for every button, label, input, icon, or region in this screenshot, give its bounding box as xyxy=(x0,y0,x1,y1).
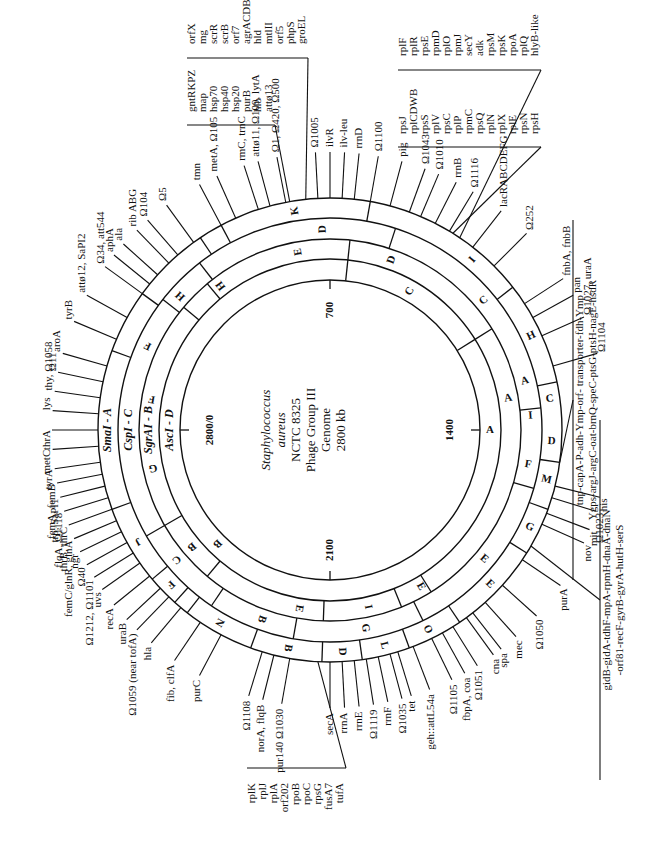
marker-leader xyxy=(547,513,590,529)
segment-divider xyxy=(394,589,401,608)
marker-leader xyxy=(217,176,236,218)
segment-label: J xyxy=(133,536,144,549)
marker-leader xyxy=(57,474,102,483)
segment-label: G xyxy=(360,622,373,633)
segment-label: E xyxy=(293,604,306,613)
segment-divider xyxy=(146,526,164,537)
gene-marker-label: ala xyxy=(112,228,124,241)
genome-title: StaphylococcusaureusNCTC 8325Phage Group… xyxy=(258,388,348,472)
segment-divider xyxy=(251,629,258,648)
gene-marker-label: uraB xyxy=(116,623,128,644)
segment-divider xyxy=(152,566,167,579)
segment-label: I xyxy=(528,408,533,420)
segment-label: H xyxy=(524,327,537,342)
enzyme-label: CspI - C xyxy=(121,408,135,450)
marker-leader xyxy=(244,166,258,210)
segment-label: D xyxy=(384,254,398,266)
segment-label: G xyxy=(524,519,537,534)
marker-leader xyxy=(105,267,142,294)
segment-divider xyxy=(367,202,370,222)
gene-marker-label: mec xyxy=(512,640,524,658)
marker-leader xyxy=(494,233,527,266)
segment-divider xyxy=(112,351,131,358)
gene-marker-label: purA xyxy=(557,588,569,611)
gene-marker-label: hla xyxy=(141,647,153,661)
marker-leader xyxy=(315,152,317,198)
marker-leader xyxy=(390,161,402,205)
scale-label: 2100 xyxy=(323,539,335,562)
marker-leader xyxy=(114,255,150,284)
segment-divider xyxy=(497,287,513,299)
gene-marker-label: lys xyxy=(40,397,52,410)
gene-marker-label: pur140 Ω1030 xyxy=(273,708,285,773)
segment-divider xyxy=(322,642,323,662)
marker-leader xyxy=(533,295,573,317)
segment-divider xyxy=(414,602,423,621)
gene-marker-label: aroA xyxy=(50,330,62,352)
marker-leader xyxy=(522,560,560,586)
segment-label: E xyxy=(415,580,429,592)
segment-label: B xyxy=(185,541,199,555)
segment-label: H xyxy=(212,279,227,293)
marker-leader xyxy=(354,661,359,707)
marker-leader xyxy=(282,658,290,703)
gene-marker-label: Ω1116 xyxy=(468,158,480,188)
segment-label: E xyxy=(291,247,304,256)
gene-group-item: Ygps-argJ-argC-oat-brnQ-speC-ptsG-ptsH-n… xyxy=(586,279,598,520)
segment-label: K xyxy=(287,205,300,216)
segment-divider xyxy=(475,329,492,340)
gene-marker-label: nov xyxy=(581,545,593,562)
marker-leader xyxy=(69,509,112,525)
marker-leader xyxy=(409,169,425,212)
segment-label: B xyxy=(211,537,225,551)
segment-label: C xyxy=(545,391,555,404)
segment-divider xyxy=(403,629,410,648)
marker-leader xyxy=(87,295,127,317)
marker-leader xyxy=(74,321,116,339)
marker-leader xyxy=(199,635,221,676)
segment-label: F xyxy=(141,339,152,353)
marker-leader xyxy=(53,446,99,449)
gene-marker-label: Ω11 xyxy=(46,352,58,371)
title-line: Phage Group III xyxy=(303,388,318,472)
marker-leader xyxy=(175,622,201,660)
marker-leader xyxy=(502,585,536,616)
title-line: 2800 kb xyxy=(333,409,348,451)
gene-marker-label: Ω1100 xyxy=(372,121,384,151)
gene-marker-label: lacRABCDEFG xyxy=(497,135,509,207)
gene-marker-label: attø12, SaPI2 xyxy=(75,234,87,293)
marker-leader xyxy=(370,156,378,201)
segment-divider xyxy=(360,640,363,660)
gene-marker-label: norA, flqB xyxy=(254,705,266,753)
gene-marker-label: Ω252 xyxy=(523,205,535,230)
segment-label: A xyxy=(486,423,494,435)
segment-label: B xyxy=(282,643,295,653)
segment-divider xyxy=(323,601,324,621)
segment-divider xyxy=(293,618,297,639)
segment-label: M xyxy=(540,471,553,485)
marker-leader xyxy=(137,230,169,263)
marker-leader xyxy=(542,524,584,543)
enzyme-label: AscI - D xyxy=(162,409,176,452)
marker-leader xyxy=(58,372,103,382)
marker-leader xyxy=(74,521,116,539)
segment-label: C xyxy=(476,292,490,306)
gene-group-item: attø13 xyxy=(262,84,274,112)
scale-label: 2800/0 xyxy=(203,414,215,445)
gene-marker-label: Ω1119 xyxy=(367,709,379,739)
segment-divider xyxy=(221,225,230,243)
segment-label: H xyxy=(172,289,187,304)
marker-leader xyxy=(167,205,194,242)
marker-leader xyxy=(258,161,270,205)
gene-group-item: gidB-gidA-tdhF-mpA-rpmH-dnaA-dnaN xyxy=(600,510,612,691)
segment-label: E xyxy=(478,551,491,565)
segment-divider xyxy=(457,339,475,350)
title-line: Genome xyxy=(318,408,333,452)
marker-leader xyxy=(378,657,388,702)
gene-marker-label: rrnB xyxy=(451,158,463,178)
scale-label: 1400 xyxy=(443,419,455,442)
gene-marker-label: metC xyxy=(40,450,52,474)
gene-marker-label: Ω1212, Ω1101 xyxy=(83,580,95,645)
marker-leader xyxy=(55,391,101,397)
gene-group-item: rpsH xyxy=(528,113,540,134)
